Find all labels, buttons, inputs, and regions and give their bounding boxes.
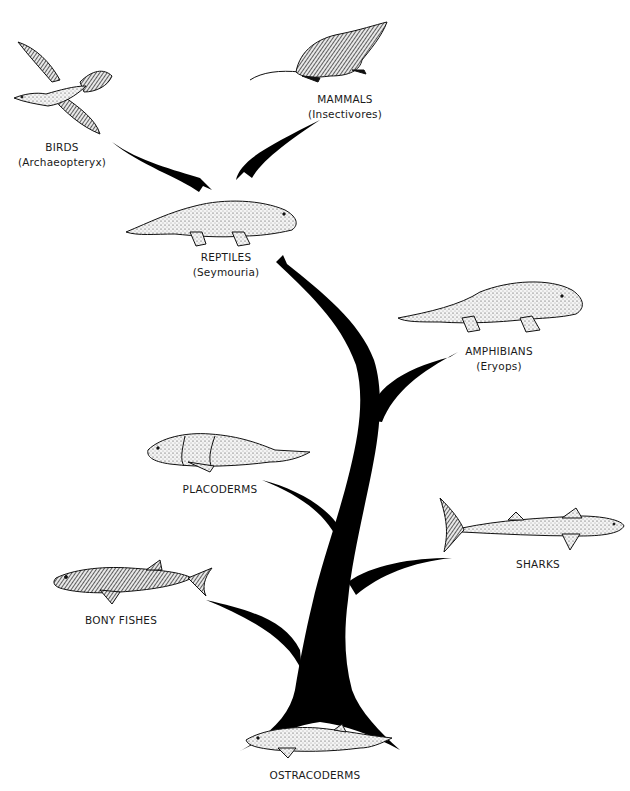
label-birds: BIRDS (Archaeopteryx): [18, 140, 106, 170]
group-example: (Eryops): [465, 359, 533, 374]
branch-bony-fishes: [206, 600, 302, 672]
group-name: AMPHIBIANS: [465, 344, 533, 359]
trunk-main: [238, 255, 400, 752]
mammal-insectivore-drawing: [250, 22, 387, 82]
group-name: PLACODERMS: [183, 482, 258, 497]
branch-mammals: [236, 120, 320, 180]
group-example: (Archaeopteryx): [18, 155, 106, 170]
label-placoderms: PLACODERMS: [183, 482, 258, 497]
bony-fish-drawing: [54, 560, 212, 604]
group-name: REPTILES: [193, 250, 260, 265]
group-name: SHARKS: [516, 557, 560, 572]
label-amphibians: AMPHIBIANS (Eryops): [465, 344, 533, 374]
bird-archaeopteryx-drawing: [14, 42, 112, 134]
group-name: OSTRACODERMS: [270, 768, 361, 783]
group-name: MAMMALS: [308, 92, 382, 107]
placoderm-drawing: [148, 434, 310, 472]
shark-drawing: [440, 498, 624, 552]
amphibian-eryops-drawing: [398, 282, 582, 332]
label-ostracoderms: OSTRACODERMS: [270, 768, 361, 783]
label-sharks: SHARKS: [516, 557, 560, 572]
label-bony-fishes: BONY FISHES: [85, 613, 157, 628]
branch-amphibians: [368, 352, 458, 422]
group-example: (Insectivores): [308, 107, 382, 122]
branch-sharks: [348, 558, 452, 595]
label-reptiles: REPTILES (Seymouria): [193, 250, 260, 280]
reptile-seymouria-drawing: [126, 201, 296, 246]
group-example: (Seymouria): [193, 265, 260, 280]
branch-birds: [112, 142, 212, 192]
group-name: BIRDS: [18, 140, 106, 155]
group-name: BONY FISHES: [85, 613, 157, 628]
label-mammals: MAMMALS (Insectivores): [308, 92, 382, 122]
